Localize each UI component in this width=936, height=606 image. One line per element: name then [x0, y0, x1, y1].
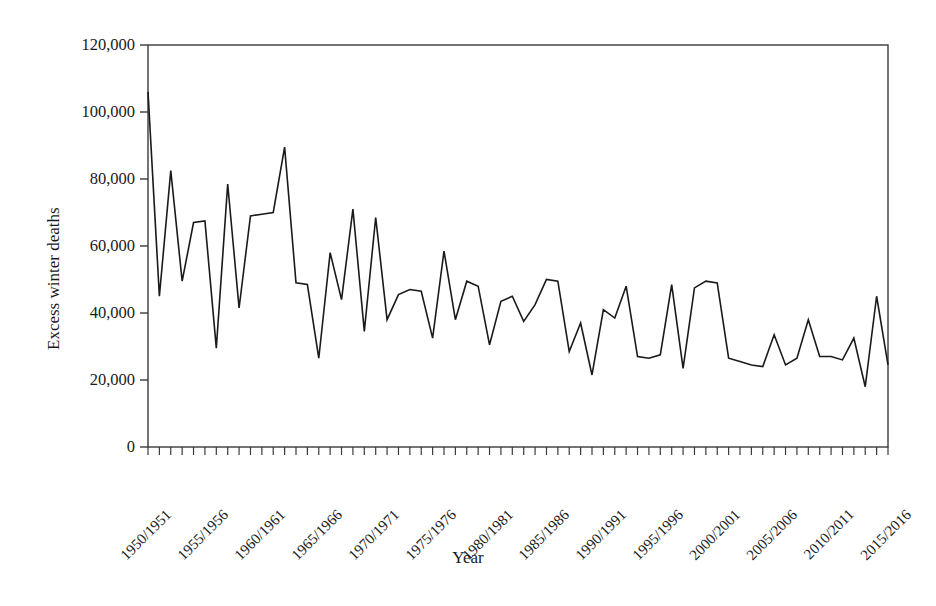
y-axis-ticks	[140, 45, 148, 447]
y-tick-label: 20,000	[90, 370, 135, 390]
y-tick-label: 60,000	[90, 236, 135, 256]
plot-border	[148, 45, 888, 447]
y-tick-label: 40,000	[90, 303, 135, 323]
data-line-0	[148, 92, 888, 387]
y-tick-label: 0	[127, 437, 135, 457]
y-tick-label: 80,000	[90, 169, 135, 189]
x-axis-ticks	[148, 447, 888, 455]
plot-frame	[148, 45, 888, 447]
y-axis-title: Excess winter deaths	[44, 207, 64, 350]
y-tick-label: 120,000	[81, 35, 135, 55]
data-series-group	[148, 92, 888, 387]
y-tick-label: 100,000	[81, 102, 135, 122]
chart-figure: Excess winter deaths Year 020,00040,0006…	[0, 0, 936, 606]
